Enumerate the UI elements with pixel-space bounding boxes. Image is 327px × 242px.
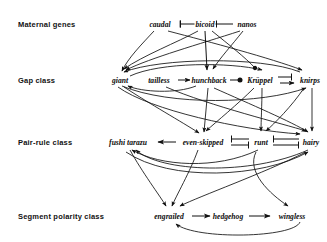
gene-node-hairy[interactable]: hairy	[302, 138, 320, 147]
edge-runt-hairy-bar	[273, 136, 299, 149]
edge-fushitarazu-engrailed	[130, 150, 166, 206]
gene-node-knirps[interactable]: knirps	[299, 76, 321, 85]
edge-hunchback-giant-curve	[128, 86, 196, 91]
edge-kruppel-runt	[261, 88, 262, 131]
edge-hunchback-evenskipped	[204, 88, 208, 132]
edge-knirps-giant-curve	[124, 61, 300, 72]
edge-bicoid-kruppel-ball	[212, 31, 255, 68]
gene-node-engrailed[interactable]: engrailed	[153, 212, 185, 221]
edge-giant-hairy-long	[118, 87, 300, 134]
gene-node-hedgehog[interactable]: hedgehog	[212, 212, 244, 221]
edge-nanos-giant	[126, 31, 240, 70]
edge-fushitarazu-hairy-curve	[126, 152, 308, 173]
gene-node-wingless[interactable]: wingless	[278, 212, 307, 221]
edge-hairy-fushitarazu-curve	[136, 150, 308, 168]
edge-hairy-engrailed	[180, 152, 306, 206]
gene-node-giant[interactable]: giant	[111, 76, 129, 85]
gene-node-even-skipped[interactable]: even-skipped	[182, 138, 225, 147]
gene-node-nanos[interactable]: nanos	[237, 20, 258, 29]
edge-layer	[0, 0, 327, 242]
gene-node-bicoid[interactable]: bicoid	[195, 20, 216, 29]
edge-caudal-knirps	[168, 31, 302, 70]
edge-runt-wingless	[254, 152, 288, 206]
edge-wingless-engrailed-feedback	[176, 222, 300, 235]
gene-node-caudal[interactable]: caudal	[148, 20, 171, 29]
edge-evenskipped-engrailed	[172, 150, 198, 206]
gene-node-hunchback[interactable]: hunchback	[190, 76, 227, 85]
gene-node-tailless[interactable]: tailless	[147, 76, 171, 85]
edge-evenskipped-runt-bar	[231, 136, 249, 149]
edge-giant-kruppel-curve	[130, 65, 262, 76]
gene-node-runt[interactable]: runt	[253, 138, 269, 147]
edge-bicoid-bar-nanos	[215, 21, 233, 28]
edge-giant-evenskipped	[124, 87, 199, 133]
gene-node-kruppel[interactable]: Krüppel	[246, 76, 273, 85]
diagram-canvas: Maternal genes Gap class Pair-rule class…	[0, 0, 327, 242]
edge-kruppel-knirps-bar	[278, 74, 294, 84]
gene-node-fushi-tarazu[interactable]: fushi tarazu	[108, 138, 148, 147]
edge-bicoid-giant	[124, 31, 198, 69]
